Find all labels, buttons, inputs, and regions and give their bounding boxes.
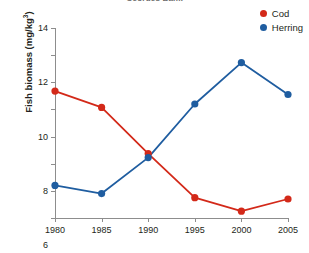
x-tick-2005 [288, 218, 289, 222]
y-axis-title-exponent: 3 [22, 15, 29, 19]
y-tick-label-14: 14 [38, 23, 48, 33]
legend-swatch-cod [260, 10, 267, 17]
x-tick-label-1980: 1980 [45, 225, 65, 235]
data-point-herring-2000[interactable] [238, 59, 245, 66]
series-line-cod [55, 91, 288, 211]
series-line-herring [55, 63, 288, 194]
series-plot [55, 28, 288, 218]
x-tick-label-2005: 2005 [278, 225, 298, 235]
data-point-cod-1995[interactable] [191, 194, 198, 201]
plot-area: 02468101214 198019851990199520002005 [55, 28, 288, 218]
y-axis-title: Fish biomass (mg/kg3) [22, 0, 34, 142]
data-point-herring-1985[interactable] [98, 190, 105, 197]
data-point-herring-2005[interactable] [284, 91, 291, 98]
data-point-herring-1995[interactable] [191, 100, 198, 107]
data-point-cod-1980[interactable] [51, 88, 58, 95]
data-point-herring-1990[interactable] [145, 154, 152, 161]
x-tick-1985 [102, 218, 103, 222]
data-point-herring-1980[interactable] [51, 182, 58, 189]
x-tick-label-1995: 1995 [185, 225, 205, 235]
x-tick-label-2000: 2000 [231, 225, 251, 235]
y-tick-label-6: 6 [43, 240, 48, 250]
legend-item-cod[interactable]: Cod [260, 9, 289, 19]
y-tick-label-8: 8 [43, 186, 48, 196]
data-point-cod-2000[interactable] [238, 208, 245, 215]
y-tick-label-12: 12 [38, 77, 48, 87]
legend-label-cod: Cod [272, 9, 289, 19]
y-axis-title-text: Fish biomass (mg/kg [23, 18, 34, 113]
x-tick-2000 [241, 218, 242, 222]
chart-title: Georges Bank [0, 0, 309, 1]
x-tick-label-1990: 1990 [138, 225, 158, 235]
y-tick-label-10: 10 [38, 132, 48, 142]
chart-figure: Georges Bank Cod Herring Fish biomass (m… [0, 0, 309, 253]
x-axis-line [55, 218, 288, 219]
y-axis-title-tail: ) [23, 11, 34, 14]
data-point-cod-1985[interactable] [98, 104, 105, 111]
x-tick-1995 [195, 218, 196, 222]
x-tick-1990 [148, 218, 149, 222]
x-tick-label-1985: 1985 [92, 225, 112, 235]
x-tick-1980 [55, 218, 56, 222]
data-point-cod-2005[interactable] [284, 195, 291, 202]
